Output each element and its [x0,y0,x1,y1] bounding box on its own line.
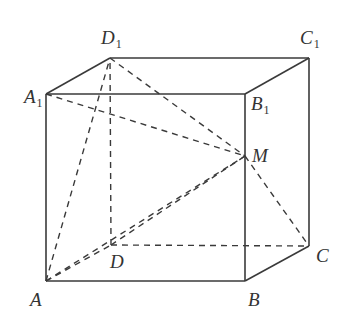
dashed-edge-D-C [111,245,309,246]
dashed-edge-M-C [245,156,309,246]
edge-B1-C1 [245,58,309,94]
vertex-label-C: C [316,245,329,266]
vertex-label-C1: C1 [300,27,320,51]
vertex-label-B1: B1 [251,93,270,117]
vertex-label-D1: D1 [100,27,122,51]
dashed-edge-D-D1 [110,58,111,245]
vertex-label-A: A [28,289,42,310]
dashed-edges [46,58,309,281]
dashed-edge-D-M [111,156,245,245]
edge-B-C [245,246,309,281]
edge-D1-A1 [46,58,110,94]
cube-diagram: ABCDA1B1C1D1M [0,0,344,320]
vertex-label-B: B [248,289,260,310]
dashed-edge-A1-M [46,94,245,156]
vertex-label-M: M [251,145,269,166]
dashed-edge-D1-M [110,58,245,156]
vertex-label-D: D [109,251,124,272]
vertex-label-A1: A1 [22,86,43,110]
dashed-edge-A-D1 [46,58,110,281]
solid-edges [46,58,309,281]
